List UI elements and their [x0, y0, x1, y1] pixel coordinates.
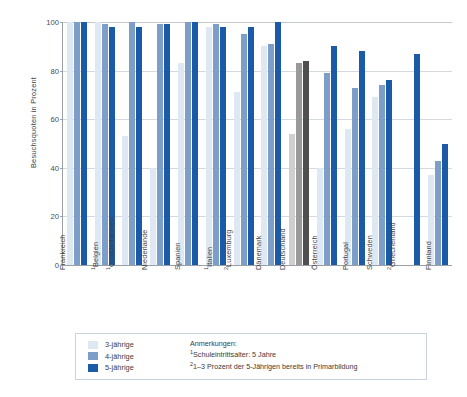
bar	[289, 134, 295, 265]
bar	[178, 63, 184, 265]
bar	[67, 22, 73, 265]
x-axis-label-text: 1Belgien	[90, 242, 100, 270]
bar-group	[424, 22, 452, 265]
bar	[268, 44, 274, 265]
x-axis-label-text: 1Italien	[204, 247, 214, 270]
x-axis-label: Deutschland	[285, 268, 313, 330]
bar-group	[396, 22, 424, 265]
chart-page: Besuchsquoten in Prozent 020406080100 Fr…	[0, 0, 467, 397]
bar-group	[313, 22, 341, 265]
x-axis-label: Schweden	[368, 268, 396, 330]
legend-swatch	[88, 341, 98, 349]
bar-group	[146, 22, 174, 265]
bar	[81, 22, 87, 265]
y-axis-tick-label: 20	[37, 212, 59, 221]
x-axis-label: 2Luxemburg	[229, 268, 257, 330]
x-axis-label-text: 2Griechenland	[386, 222, 396, 270]
note-text-1: Schuleintrittsalter: 5 Jahre	[193, 351, 276, 360]
bar	[414, 54, 420, 265]
x-axis-label: Spanien	[173, 268, 201, 330]
y-axis-tick-label: 0	[37, 261, 59, 270]
x-axis-label-text: 1Großbritannien	[105, 217, 115, 270]
bar-group	[285, 22, 313, 265]
y-axis-tick-label: 60	[37, 115, 59, 124]
bar-group	[174, 22, 202, 265]
bar	[192, 22, 198, 265]
bar	[74, 22, 80, 265]
x-axis-label: Frankreich	[62, 268, 90, 330]
legend-swatch	[88, 364, 98, 372]
x-axis-label-text: Portugal	[341, 242, 350, 270]
bar-group	[341, 22, 369, 265]
bar	[379, 85, 385, 265]
bar	[213, 24, 219, 265]
bar	[150, 168, 156, 265]
x-axis-label: 1Italien	[201, 268, 229, 330]
x-axis-label: Finnland	[424, 268, 452, 330]
x-label-marker: 1	[105, 267, 111, 270]
note-line-2: 21–3 Prozent der 5-Jährigen bereits in P…	[190, 361, 422, 373]
bar	[234, 92, 240, 265]
legend-label: 5-jährige	[105, 363, 134, 372]
bar	[129, 22, 135, 265]
x-axis-label: Portugal	[341, 268, 369, 330]
x-axis-label-text: Schweden	[365, 235, 374, 270]
bar	[435, 161, 441, 265]
bar-group	[230, 22, 258, 265]
x-axis-label-text: Frankreich	[58, 235, 67, 270]
bar	[95, 22, 101, 265]
bar	[185, 22, 191, 265]
x-axis-label: Dänemark	[257, 268, 285, 330]
x-label-marker: 1	[204, 267, 210, 270]
bar	[352, 88, 358, 265]
x-axis-labels: Frankreich1Belgien1GroßbritannienNiederl…	[62, 268, 452, 330]
bar	[324, 73, 330, 265]
x-axis-label: 1Belgien	[90, 268, 118, 330]
x-axis-label: 2Griechenland	[396, 268, 424, 330]
x-axis-label-text: Spanien	[174, 243, 183, 270]
legend-label: 4-jährige	[105, 352, 134, 361]
x-label-marker: 1	[90, 267, 96, 270]
legend-and-notes-box: 3-jährige4-jährige5-jährige Anmerkungen:…	[75, 333, 427, 380]
x-axis-label-text: Dänemark	[254, 236, 263, 270]
note-line-1: 1Schuleintrittsalter: 5 Jahre	[190, 349, 422, 361]
bar	[261, 46, 267, 265]
x-axis-label: Österreich	[313, 268, 341, 330]
bar	[157, 24, 163, 265]
x-axis-label-text: Österreich	[309, 235, 318, 270]
note-text-2: 1–3 Prozent der 5-Jährigen bereits in Pr…	[193, 362, 358, 371]
bar	[303, 61, 309, 265]
x-axis-label-text: Deutschland	[278, 228, 287, 270]
bar	[164, 24, 170, 265]
x-axis-label-text: Finnland	[424, 241, 433, 270]
bar	[206, 27, 212, 265]
bar	[241, 34, 247, 265]
legend-label: 3-jährige	[105, 340, 134, 349]
legend-item[interactable]: 5-jährige	[88, 363, 186, 372]
x-axis-label-text: 2Luxemburg	[223, 229, 233, 270]
legend-item[interactable]: 4-jährige	[88, 352, 186, 361]
x-label-marker: 2	[386, 267, 392, 270]
bar-group	[119, 22, 147, 265]
y-axis-tick-label: 40	[37, 163, 59, 172]
x-axis-label: Niederlande	[146, 268, 174, 330]
bar	[359, 51, 365, 265]
bar	[331, 46, 337, 265]
legend-item[interactable]: 3-jährige	[88, 340, 186, 349]
legend-swatch	[88, 352, 98, 360]
bar	[442, 144, 448, 266]
bar	[122, 136, 128, 265]
bar	[296, 63, 302, 265]
legend: 3-jährige4-jährige5-jährige	[76, 334, 186, 379]
x-label-marker: 2	[223, 267, 229, 270]
y-axis-tick-label: 100	[37, 18, 59, 27]
notes-heading: Anmerkungen:	[190, 339, 422, 349]
notes: Anmerkungen: 1Schuleintrittsalter: 5 Jah…	[186, 334, 426, 379]
bar-group	[63, 22, 91, 265]
x-axis-label: 1Großbritannien	[118, 268, 146, 330]
y-axis-tick-label: 80	[37, 66, 59, 75]
x-axis-label-text: Niederlande	[139, 230, 148, 270]
bar	[248, 27, 254, 265]
